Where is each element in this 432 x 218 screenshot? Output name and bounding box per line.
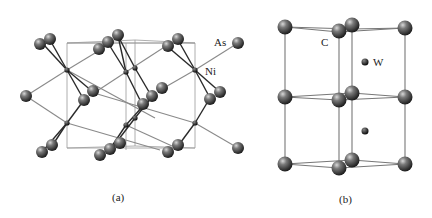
c-atom xyxy=(332,161,347,176)
as-atom xyxy=(172,139,184,151)
as-atom xyxy=(112,29,124,41)
c-label: C xyxy=(321,36,328,48)
as-atom xyxy=(204,93,216,105)
as-atom xyxy=(146,90,158,102)
crystal-structure-figure: As Ni (a) xyxy=(0,0,432,218)
c-atom xyxy=(278,90,293,105)
as-atom xyxy=(102,36,114,48)
ni-atom xyxy=(123,122,128,127)
ni-atom xyxy=(192,120,197,125)
w-label: W xyxy=(373,56,384,68)
as-atom xyxy=(94,149,106,161)
as-atom xyxy=(44,33,56,45)
ni-atom xyxy=(64,120,69,125)
w-atoms xyxy=(362,59,369,135)
as-atom xyxy=(78,94,90,106)
ni-atom xyxy=(132,115,137,120)
as-atom xyxy=(20,90,32,102)
as-atom xyxy=(162,146,174,158)
panel-a-nias-structure: As Ni (a) xyxy=(20,29,244,204)
ni-atom xyxy=(123,69,128,74)
c-atom xyxy=(332,24,347,39)
as-atom xyxy=(36,146,48,158)
c-atom xyxy=(332,93,347,108)
panel-b-caption: (b) xyxy=(339,193,352,206)
c-atom xyxy=(398,21,413,36)
as-atoms xyxy=(20,29,244,161)
as-label: As xyxy=(214,36,226,48)
c-atom xyxy=(398,157,413,172)
ni-atom xyxy=(192,67,197,72)
as-atom xyxy=(46,139,58,151)
as-atom xyxy=(232,37,244,49)
as-atom xyxy=(156,82,168,94)
w-atom xyxy=(362,128,369,135)
c-atom xyxy=(398,90,413,105)
as-atom xyxy=(162,40,174,52)
as-atom xyxy=(137,98,149,110)
c-atom xyxy=(278,157,293,172)
c-atom xyxy=(345,153,360,168)
dark-bonds xyxy=(42,36,220,152)
as-atom xyxy=(87,85,99,97)
panel-b-wc-structure: C W (b) xyxy=(278,18,413,207)
as-atom xyxy=(232,142,244,154)
ni-label: Ni xyxy=(205,65,216,77)
w-atom xyxy=(362,59,369,66)
c-atom xyxy=(278,20,293,35)
as-atom xyxy=(214,86,226,98)
as-atom xyxy=(104,143,116,155)
c-atom xyxy=(345,18,360,33)
c-atom xyxy=(345,86,360,101)
ni-atom xyxy=(64,67,69,72)
panel-a-caption: (a) xyxy=(112,191,125,204)
as-atom xyxy=(172,33,184,45)
as-atom xyxy=(114,137,126,149)
ni-atom xyxy=(132,65,137,70)
